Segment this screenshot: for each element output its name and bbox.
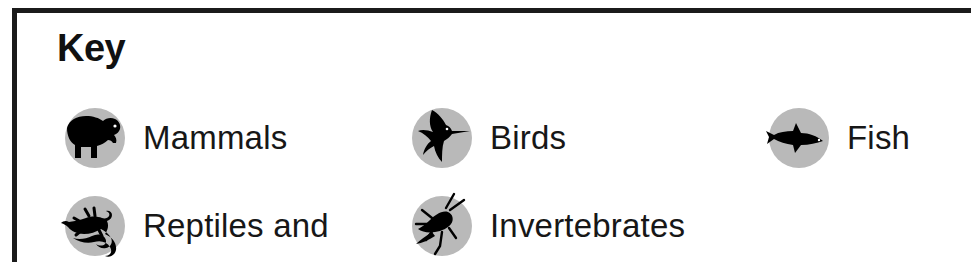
legend-item-fish: Fish bbox=[759, 97, 910, 177]
legend-item-birds: Birds bbox=[402, 97, 566, 177]
lizard-silhouette-icon bbox=[55, 188, 129, 262]
bear-silhouette-icon bbox=[55, 100, 129, 174]
lizard-silhouette-art bbox=[55, 188, 129, 262]
cricket-silhouette-art bbox=[402, 188, 476, 262]
fish-silhouette-icon bbox=[759, 100, 833, 174]
legend-label: Invertebrates bbox=[490, 209, 685, 242]
legend-item-invertebrates: Invertebrates bbox=[402, 185, 685, 262]
legend-row: Reptiles and bbox=[17, 185, 971, 262]
hummingbird-silhouette-icon bbox=[402, 100, 476, 174]
legend-label: Mammals bbox=[143, 121, 287, 154]
legend-row: Mammals Birds bbox=[17, 97, 971, 177]
legend-label: Birds bbox=[490, 121, 566, 154]
bear-silhouette-art bbox=[55, 100, 129, 174]
cricket-silhouette-icon bbox=[402, 188, 476, 262]
hummingbird-silhouette-art bbox=[402, 100, 476, 174]
legend-item-mammals: Mammals bbox=[55, 97, 287, 177]
legend-label: Fish bbox=[847, 121, 910, 154]
key-legend-panel: Key Mammals bbox=[12, 8, 971, 262]
fish-silhouette-art bbox=[759, 100, 833, 174]
legend-item-reptiles: Reptiles and bbox=[55, 185, 329, 262]
legend-label: Reptiles and bbox=[143, 209, 329, 242]
key-title: Key bbox=[57, 29, 125, 67]
